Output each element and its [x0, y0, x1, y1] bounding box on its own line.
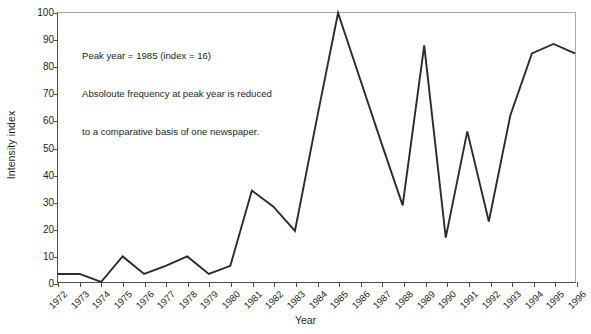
y-axis-title: Intensity index — [2, 0, 20, 290]
x-tick-mark — [512, 282, 513, 287]
x-tick-mark — [339, 282, 340, 287]
x-tick-label: 1993 — [501, 289, 523, 311]
x-tick-label: 1980 — [220, 289, 242, 311]
x-tick-mark — [166, 282, 167, 287]
x-tick-mark — [577, 282, 578, 287]
x-tick-mark — [253, 282, 254, 287]
x-axis-title-text: Year — [295, 314, 316, 326]
x-tick-mark — [404, 282, 405, 287]
x-tick-label: 1989 — [415, 289, 437, 311]
x-axis-title: Year — [0, 314, 591, 326]
y-tick-label: 20 — [43, 225, 54, 235]
x-tick-label: 1990 — [436, 289, 458, 311]
x-tick-label: 1984 — [307, 289, 329, 311]
annotation-line-3: to a comparative basis of one newspaper. — [82, 126, 272, 139]
x-tick-mark — [426, 282, 427, 287]
x-tick-mark — [188, 282, 189, 287]
plot-area: 0102030405060708090100 19721973197419751… — [57, 12, 576, 283]
y-tick-label: 90 — [43, 35, 54, 45]
x-tick-label: 1982 — [263, 289, 285, 311]
x-tick-label: 1979 — [198, 289, 220, 311]
y-tick-label: 10 — [43, 252, 54, 262]
x-tick-mark — [534, 282, 535, 287]
x-tick-mark — [382, 282, 383, 287]
x-tick-label: 1991 — [458, 289, 480, 311]
x-tick-mark — [80, 282, 81, 287]
x-tick-label: 1976 — [134, 289, 156, 311]
x-tick-label: 1983 — [285, 289, 307, 311]
x-tick-mark — [318, 282, 319, 287]
x-tick-label: 1974 — [90, 289, 112, 311]
chart-annotation: Peak year = 1985 (index = 16) Absoloute … — [82, 25, 272, 164]
x-tick-mark — [491, 282, 492, 287]
x-tick-label: 1995 — [544, 289, 566, 311]
x-tick-label: 1987 — [371, 289, 393, 311]
x-tick-mark — [361, 282, 362, 287]
y-tick-label: 50 — [43, 144, 54, 154]
x-tick-label: 1978 — [177, 289, 199, 311]
y-tick-label: 100 — [37, 8, 54, 18]
y-tick-label: 0 — [48, 279, 54, 289]
x-tick-mark — [274, 282, 275, 287]
y-axis-title-text: Intensity index — [5, 111, 17, 180]
x-tick-label: 1986 — [350, 289, 372, 311]
x-tick-mark — [123, 282, 124, 287]
y-tick-label: 30 — [43, 198, 54, 208]
x-tick-mark — [58, 282, 59, 287]
y-tick-label: 60 — [43, 116, 54, 126]
x-tick-label: 1994 — [523, 289, 545, 311]
x-tick-label: 1972 — [47, 289, 69, 311]
x-tick-label: 1988 — [393, 289, 415, 311]
x-tick-mark — [296, 282, 297, 287]
y-tick-label: 70 — [43, 89, 54, 99]
x-tick-label: 1985 — [328, 289, 350, 311]
x-tick-mark — [469, 282, 470, 287]
x-tick-mark — [555, 282, 556, 287]
x-tick-label: 1977 — [155, 289, 177, 311]
x-tick-label: 1996 — [566, 289, 588, 311]
annotation-line-2: Absoloute frequency at peak year is redu… — [82, 88, 272, 101]
x-tick-mark — [231, 282, 232, 287]
x-tick-label: 1973 — [69, 289, 91, 311]
x-tick-mark — [447, 282, 448, 287]
x-tick-label: 1992 — [480, 289, 502, 311]
line-chart-figure: Intensity index 0102030405060708090100 1… — [0, 0, 591, 334]
annotation-line-1: Peak year = 1985 (index = 16) — [82, 50, 272, 63]
x-tick-label: 1975 — [112, 289, 134, 311]
y-tick-label: 40 — [43, 171, 54, 181]
x-tick-mark — [145, 282, 146, 287]
x-tick-label: 1981 — [242, 289, 264, 311]
y-tick-label: 80 — [43, 62, 54, 72]
x-tick-mark — [209, 282, 210, 287]
